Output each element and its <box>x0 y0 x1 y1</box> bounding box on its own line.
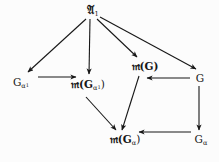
arrow-m-g-alpha-1-to-m-g-alpha <box>86 97 116 130</box>
node-m-g-alpha-base: 𝔪(G <box>110 133 132 145</box>
node-m-g-alpha-1-close-paren: ) <box>101 78 105 90</box>
arrow-top-to-m-g <box>97 19 137 57</box>
node-g-alpha: Gα <box>195 134 208 147</box>
arrow-top-to-m-g-alpha-1 <box>89 19 90 74</box>
arrow-top-to-g-alpha-1 <box>28 19 86 72</box>
node-g-alpha-1-subsubscript: 1 <box>26 82 29 88</box>
node-script-a-1: 𝔄1 <box>87 5 98 18</box>
node-m-g-alpha-1-base: 𝔪(G <box>71 78 93 90</box>
node-m-g-alpha-close-paren: ) <box>136 133 140 145</box>
node-m-g-base: 𝔪(G) <box>132 60 159 72</box>
node-m-g: 𝔪(G) <box>132 61 159 72</box>
node-g: G <box>196 73 204 84</box>
node-m-g-alpha-1: 𝔪(Gα1) <box>71 79 105 92</box>
commutative-diagram: 𝔄1 Gα1 𝔪(Gα1) 𝔪(G) G Gα 𝔪(Gα) <box>0 0 219 162</box>
node-g-alpha-1: Gα1 <box>13 77 29 90</box>
arrow-m-g-to-m-g-alpha <box>122 76 139 130</box>
node-g-base: G <box>196 72 204 84</box>
node-m-g-alpha: 𝔪(Gα) <box>110 134 141 147</box>
node-script-a-1-subscript: 1 <box>94 10 98 18</box>
node-script-a-1-base: 𝔄 <box>87 4 94 16</box>
node-g-alpha-subscript: α <box>203 139 207 147</box>
